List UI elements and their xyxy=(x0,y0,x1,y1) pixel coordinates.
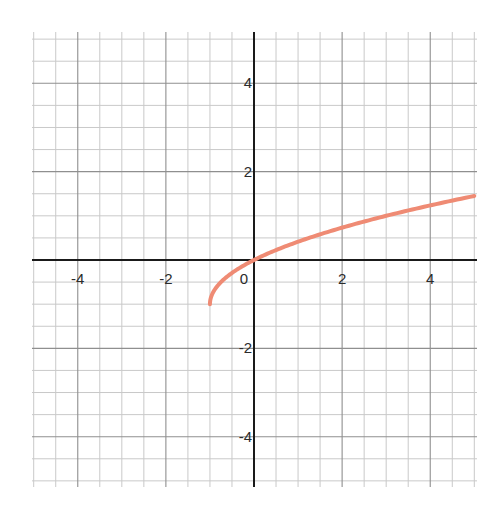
x-tick-labels: -4-2024 xyxy=(71,270,434,287)
y-tick-label: 4 xyxy=(244,74,252,91)
y-tick-label: -4 xyxy=(239,428,252,445)
x-tick-label: -4 xyxy=(71,270,84,287)
x-tick-label: 4 xyxy=(426,270,434,287)
y-tick-label: 2 xyxy=(244,163,252,180)
x-tick-label: 2 xyxy=(338,270,346,287)
x-tick-label: -2 xyxy=(159,270,172,287)
function-graph: -4-2024 42-2-4 xyxy=(0,0,500,507)
y-tick-label: -2 xyxy=(239,339,252,356)
x-tick-label: 0 xyxy=(240,270,248,287)
